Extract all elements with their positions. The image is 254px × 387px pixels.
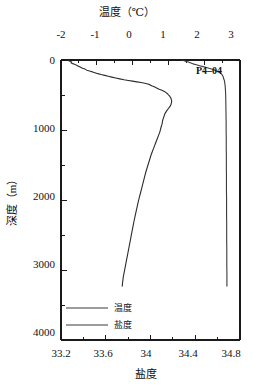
depth-tick-label: 0	[50, 54, 56, 66]
salinity-curve	[182, 60, 227, 286]
depth-tick-labels: 0 1000 2000 3000 4000	[33, 54, 56, 338]
bottom-axis-title: 盐度	[135, 367, 157, 380]
bottom-tick-label: 34	[141, 347, 153, 359]
bottom-tick-label: 33.6	[93, 347, 113, 359]
y-axis-title: 深度（m）	[5, 174, 18, 227]
plot-frame	[61, 60, 240, 340]
top-axis-title: 温度（℃）	[99, 5, 155, 18]
chart-svg: 温度（℃） -2 -1 0 1 2 3 0 1000 2000 3000 400…	[0, 0, 254, 387]
top-tick-labels: -2 -1 0 1 2 3	[56, 28, 234, 40]
bottom-tick-labels: 33.2 33.6 34 34.4 34.8	[51, 347, 241, 359]
legend-label-salinity: 盐度	[114, 319, 132, 330]
chart-legend: 温度 盐度	[66, 302, 132, 330]
top-tick-label: 1	[160, 28, 166, 40]
depth-tick-label: 3000	[33, 258, 56, 270]
bottom-tick-label: 33.2	[51, 347, 70, 359]
top-tick-label: 2	[194, 28, 200, 40]
top-tick-label: -2	[56, 28, 65, 40]
top-tick-label: -1	[90, 28, 99, 40]
top-tick-label: 0	[126, 28, 132, 40]
temperature-curve	[68, 60, 171, 286]
depth-tick-label: 2000	[33, 190, 56, 202]
bottom-tick-label: 34.4	[178, 347, 198, 359]
profile-chart-figure: 温度（℃） -2 -1 0 1 2 3 0 1000 2000 3000 400…	[0, 0, 254, 387]
tick-layer	[61, 60, 240, 340]
top-tick-label: 3	[228, 28, 234, 40]
depth-tick-label: 4000	[33, 326, 56, 338]
station-label: P4–04	[196, 65, 222, 76]
legend-label-temperature: 温度	[114, 302, 132, 313]
series-layer	[68, 60, 227, 286]
depth-tick-label: 1000	[33, 122, 56, 134]
bottom-tick-label: 34.8	[221, 347, 241, 359]
